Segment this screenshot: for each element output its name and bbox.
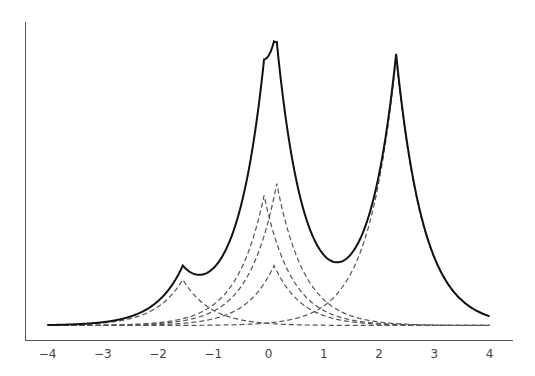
plot-area (48, 41, 490, 325)
x-tick-label: −1 (204, 347, 222, 361)
component-curve-3 (48, 184, 490, 326)
x-tick-label: 2 (375, 347, 383, 361)
chart: −4−3−2−101234 (0, 0, 535, 376)
component-curve-1 (48, 280, 490, 326)
x-tick-label: −2 (149, 347, 167, 361)
component-curve-5 (48, 58, 490, 326)
x-tick-label: −4 (39, 347, 57, 361)
total-curve (48, 41, 490, 325)
x-tick-label: 1 (320, 347, 328, 361)
component-curves (48, 58, 490, 326)
component-curve-4 (48, 266, 490, 326)
x-tick-label: 0 (265, 347, 273, 361)
x-tick-label: 3 (430, 347, 438, 361)
x-tick-label: −3 (94, 347, 112, 361)
component-curve-2 (48, 196, 490, 326)
x-tick-labels: −4−3−2−101234 (39, 347, 494, 361)
x-tick-label: 4 (486, 347, 494, 361)
